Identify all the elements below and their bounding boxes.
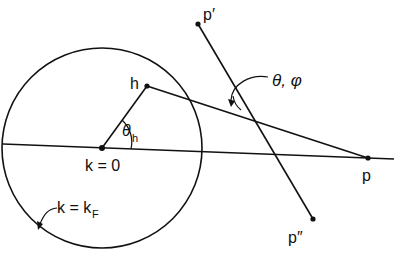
p-point (365, 155, 370, 160)
p-label: p (362, 167, 371, 184)
p-double-prime-label: p″ (288, 229, 303, 246)
p-prime-line (198, 24, 313, 219)
h-to-p-line (147, 86, 368, 158)
fermi-label: k = k (57, 199, 92, 216)
p-double-prime-point (310, 216, 315, 221)
theta-h-subscript: h (132, 132, 138, 144)
origin-point (99, 145, 105, 151)
theta-h-label: θ (122, 122, 131, 139)
p-prime-label: p′ (203, 6, 215, 23)
fermi-leader (40, 208, 57, 224)
theta-phi-label: θ, φ (272, 71, 302, 90)
fermi-sphere-diagram: p′ p″ h p θ, φ θ h k = 0 k = k F (0, 0, 406, 256)
fermi-subscript: F (92, 208, 99, 220)
h-label: h (130, 75, 139, 92)
p-prime-point (195, 21, 200, 26)
h-point (144, 83, 149, 88)
theta-phi-arc (233, 96, 241, 110)
origin-label: k = 0 (85, 157, 120, 174)
axis-line (3, 144, 394, 159)
